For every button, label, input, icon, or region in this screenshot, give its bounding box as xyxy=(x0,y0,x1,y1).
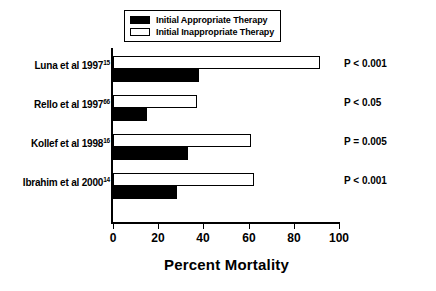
x-tick-label-80: 80 xyxy=(287,231,300,245)
category-label-ibrahim-superscript: 14 xyxy=(103,176,110,183)
plot-area: 0 20 40 60 80 100 xyxy=(113,48,340,222)
legend-swatch-filled-icon xyxy=(130,16,150,24)
category-axis-labels: Luna et al 199715 Rello et al 199766 Kol… xyxy=(0,48,110,222)
bar-inappropriate-kollef xyxy=(113,134,251,147)
legend-item-inappropriate: Initial Inappropriate Therapy xyxy=(130,26,274,38)
x-tick-20 xyxy=(158,224,159,229)
x-tick-0 xyxy=(113,224,114,229)
bar-chart: Initial Appropriate Therapy Initial Inap… xyxy=(0,0,436,291)
bar-inappropriate-rello xyxy=(113,95,197,108)
x-tick-40 xyxy=(203,224,204,229)
x-tick-100 xyxy=(339,224,340,229)
x-tick-label-40: 40 xyxy=(196,231,209,245)
x-tick-60 xyxy=(249,224,250,229)
x-tick-label-20: 20 xyxy=(151,231,164,245)
x-tick-label-60: 60 xyxy=(242,231,255,245)
category-label-luna-superscript: 15 xyxy=(103,59,110,66)
x-axis-line xyxy=(111,222,340,224)
category-label-kollef-text: Kollef et al 1998 xyxy=(31,138,103,149)
x-axis-title: Percent Mortality xyxy=(113,256,340,273)
category-label-rello: Rello et al 199766 xyxy=(34,99,110,110)
category-label-luna: Luna et al 199715 xyxy=(34,60,110,71)
pvalue-ibrahim: P < 0.001 xyxy=(344,175,387,186)
bar-appropriate-rello xyxy=(113,108,147,121)
pvalue-luna: P < 0.001 xyxy=(344,58,387,69)
x-tick-80 xyxy=(294,224,295,229)
bar-appropriate-ibrahim xyxy=(113,186,177,199)
legend-item-appropriate: Initial Appropriate Therapy xyxy=(130,14,274,26)
pvalue-kollef: P = 0.005 xyxy=(344,136,387,147)
category-label-ibrahim-text: Ibrahim et al 2000 xyxy=(23,177,103,188)
bar-inappropriate-ibrahim xyxy=(113,173,254,186)
chart-legend: Initial Appropriate Therapy Initial Inap… xyxy=(124,10,281,42)
x-tick-label-100: 100 xyxy=(329,231,349,245)
category-label-kollef-superscript: 16 xyxy=(103,137,110,144)
pvalue-annotations: P < 0.001 P < 0.05 P = 0.005 P < 0.001 xyxy=(344,48,436,222)
category-label-luna-text: Luna et al 1997 xyxy=(34,60,103,71)
category-label-rello-text: Rello et al 1997 xyxy=(34,99,103,110)
pvalue-rello: P < 0.05 xyxy=(344,97,381,108)
x-tick-label-0: 0 xyxy=(110,231,117,245)
legend-label-inappropriate: Initial Inappropriate Therapy xyxy=(156,27,274,38)
legend-label-appropriate: Initial Appropriate Therapy xyxy=(156,15,267,26)
category-label-kollef: Kollef et al 199816 xyxy=(31,138,110,149)
category-label-ibrahim: Ibrahim et al 200014 xyxy=(23,177,110,188)
bar-appropriate-luna xyxy=(113,69,199,82)
category-label-rello-superscript: 66 xyxy=(103,98,110,105)
bar-appropriate-kollef xyxy=(113,147,188,160)
legend-swatch-open-icon xyxy=(130,28,150,36)
bar-inappropriate-luna xyxy=(113,56,320,69)
